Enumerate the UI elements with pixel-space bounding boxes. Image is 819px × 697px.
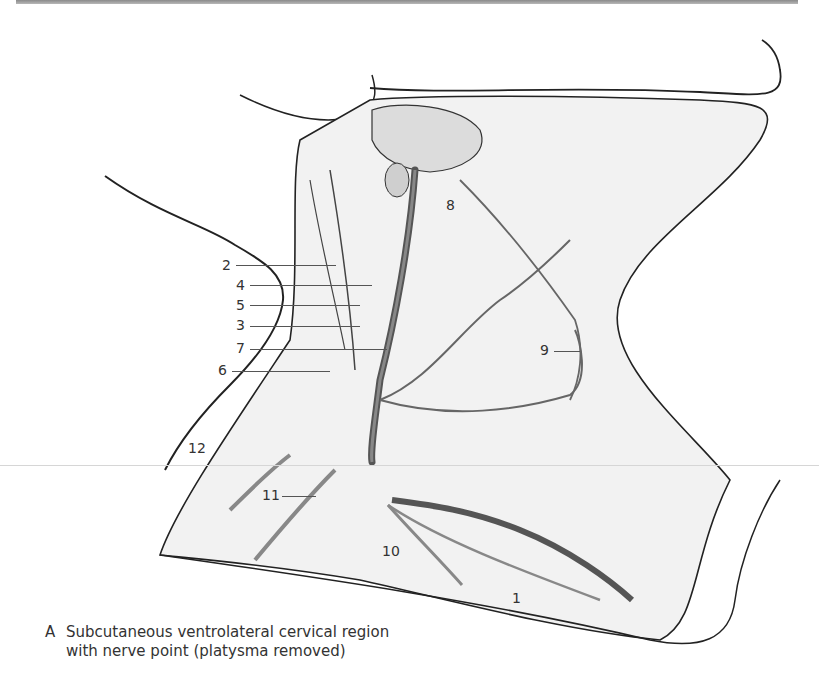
caption-line-2: with nerve point (platysma removed) [66,642,406,661]
label-3: 3 [236,318,245,332]
caption-text: Subcutaneous ventrolateral cervical regi… [66,623,406,661]
leader-6 [232,371,330,372]
dissection-region [160,96,768,640]
label-5: 5 [236,298,245,312]
neck-illustration [0,0,819,697]
scan-artifact-line [0,465,819,466]
lymph-node [385,163,409,197]
caption-line-1: Subcutaneous ventrolateral cervical regi… [66,623,406,642]
leader-2 [236,265,336,266]
leader-5 [250,305,360,306]
leader-3 [250,326,360,327]
shoulder-outline [370,40,781,94]
leader-7 [250,349,387,350]
label-1: 1 [512,591,521,605]
label-2: 2 [222,258,231,272]
label-11: 11 [262,488,280,502]
label-6: 6 [218,363,227,377]
leader-11 [282,496,316,497]
label-4: 4 [236,278,245,292]
leader-9 [554,351,580,352]
label-9: 9 [540,343,549,357]
label-8: 8 [446,198,455,212]
label-12: 12 [188,441,206,455]
leader-4 [250,285,372,286]
label-7: 7 [236,341,245,355]
label-10: 10 [382,544,400,558]
panel-letter: A [45,623,55,642]
